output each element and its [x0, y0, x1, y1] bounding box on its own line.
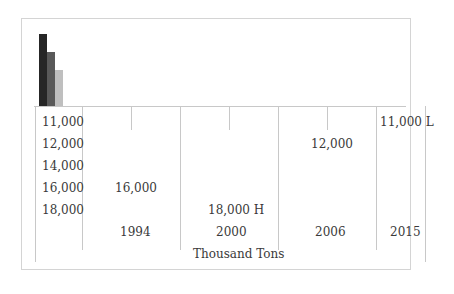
tick-2006 [327, 106, 328, 130]
divider-2006-2015 [376, 106, 377, 250]
divider-2000-2006 [278, 106, 279, 250]
tick-2000 [229, 106, 230, 130]
table-right-border [425, 106, 426, 262]
axis-title: Thousand Tons [193, 247, 284, 261]
value-1994: 16,000 [115, 181, 157, 195]
value-2000: 18,000 H [208, 203, 264, 217]
year-2000: 2000 [216, 225, 247, 239]
tick-1994 [131, 106, 132, 130]
bar-series-1 [39, 34, 47, 106]
table-left-border [35, 106, 36, 262]
bar-series-2 [47, 52, 55, 106]
row-label-14000: 14,000 [42, 159, 84, 173]
row-label-18000: 18,000 [42, 203, 84, 217]
table-top-border [34, 106, 406, 107]
row-label-11000: 11,000 [42, 115, 84, 129]
value-2006: 12,000 [311, 137, 353, 151]
row-label-16000: 16,000 [42, 181, 84, 195]
row-label-12000: 12,000 [42, 137, 84, 151]
year-2006: 2006 [315, 225, 346, 239]
year-2015: 2015 [390, 225, 421, 239]
year-1994: 1994 [120, 225, 151, 239]
divider-1994-2000 [180, 106, 181, 250]
bar-series-3 [55, 70, 63, 106]
value-2015: 11,000 L [380, 115, 434, 129]
